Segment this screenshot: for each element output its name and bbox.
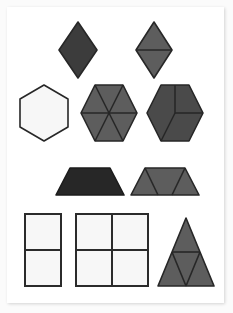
shape-rhombus-whole[interactable] bbox=[59, 22, 97, 78]
hexagon-row bbox=[20, 85, 203, 141]
shape-trapezoid-whole[interactable] bbox=[56, 168, 124, 195]
shape-square-four-squares[interactable] bbox=[76, 214, 148, 286]
shape-hexagon-three-rhombi[interactable] bbox=[147, 85, 203, 141]
shape-trapezoid-three-triangles[interactable] bbox=[131, 168, 199, 195]
hexagon-whole-body bbox=[20, 85, 68, 141]
rhombus-row bbox=[59, 22, 172, 78]
shape-triangle-four-triangles[interactable] bbox=[158, 218, 214, 286]
shape-hexagon-whole[interactable] bbox=[20, 85, 68, 141]
worksheet-page bbox=[0, 0, 233, 313]
trapezoid-three-triangles-body bbox=[131, 168, 199, 195]
rectangle-row bbox=[25, 214, 214, 286]
trapezoid-whole-body bbox=[56, 168, 124, 195]
shape-canvas bbox=[7, 7, 224, 303]
shape-rhombus-split-two-triangles[interactable] bbox=[136, 22, 172, 78]
rhombus-whole-body bbox=[59, 22, 97, 78]
shape-hexagon-six-triangles[interactable] bbox=[81, 85, 137, 141]
shape-rectangle-two-squares[interactable] bbox=[25, 214, 61, 286]
trapezoid-row bbox=[56, 168, 199, 195]
worksheet-card bbox=[7, 7, 224, 303]
